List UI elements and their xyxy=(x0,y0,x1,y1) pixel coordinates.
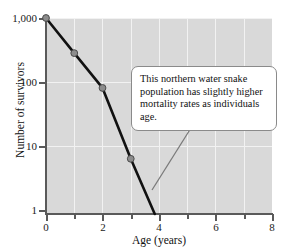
y-tick-label-1000: 1,000 xyxy=(12,13,37,24)
callout-line-3: mortality rates as individuals age. xyxy=(140,98,269,123)
y-tick-label-1: 1 xyxy=(32,205,38,216)
y-tick-100 xyxy=(39,82,46,84)
x-tick-label-0: 0 xyxy=(34,222,58,233)
y-tick-1 xyxy=(39,210,46,212)
y-axis-line xyxy=(45,17,47,215)
gridline-x-2 xyxy=(102,18,103,214)
x-tick-2 xyxy=(102,214,104,221)
x-tick-4 xyxy=(159,214,161,221)
y-tick-1000 xyxy=(39,18,46,20)
callout-annotation: This northern water snake population has… xyxy=(131,66,277,131)
y-tick-10 xyxy=(39,146,46,148)
x-tick-label-4: 4 xyxy=(147,222,171,233)
survivorship-curve-figure: 1,000 100 10 1 0 2 4 6 8 Number of survi… xyxy=(0,0,286,251)
x-tick-1 xyxy=(74,214,76,219)
x-tick-5 xyxy=(187,214,189,219)
x-tick-label-6: 6 xyxy=(204,222,228,233)
x-tick-6 xyxy=(215,214,217,221)
gridline-x-1 xyxy=(74,18,75,214)
callout-line-2: population has slightly higher xyxy=(140,86,269,99)
callout-line-1: This northern water snake xyxy=(140,73,269,86)
x-tick-3 xyxy=(131,214,133,219)
x-tick-0 xyxy=(46,214,48,221)
x-axis-title: Age (years) xyxy=(46,234,272,246)
y-axis-title: Number of survivors xyxy=(14,35,26,185)
x-tick-8 xyxy=(272,214,274,221)
x-tick-label-2: 2 xyxy=(91,222,115,233)
x-tick-label-8: 8 xyxy=(260,222,284,233)
x-tick-7 xyxy=(244,214,246,219)
y-tick-label-10: 10 xyxy=(26,141,37,152)
